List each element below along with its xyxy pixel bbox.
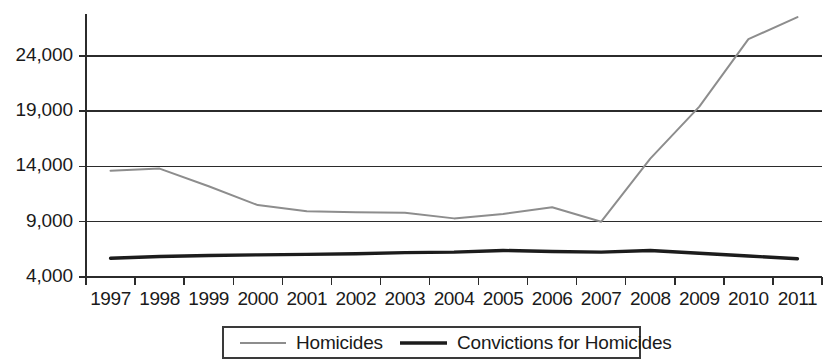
x-axis-tick-label: 1997 [90,288,131,309]
x-axis-tick-label: 2010 [728,288,769,309]
line-chart: 4,0009,00014,00019,00024,000 19971998199… [0,0,837,364]
x-axis-tick-label: 2000 [237,288,278,309]
x-axis-tick-label: 2006 [532,288,573,309]
x-axis-tick-label: 1999 [188,288,229,309]
y-axis-tick-marks [79,56,86,277]
x-axis-labels: 1997199819992000200120022003200420052006… [90,288,817,309]
y-axis-labels: 4,0009,00014,00019,00024,000 [15,44,73,286]
chart-container: 4,0009,00014,00019,00024,000 19971998199… [0,0,837,364]
y-axis-tick-label: 9,000 [26,210,73,231]
x-axis-tick-label: 2007 [581,288,622,309]
x-axis-tick-label: 2004 [434,288,476,309]
y-axis-tick-label: 4,000 [26,265,73,286]
x-axis-tick-label: 2009 [679,288,720,309]
x-axis-tick-label: 2011 [778,288,817,309]
series-line-convictions [111,250,798,258]
x-axis-tick-label: 2001 [286,288,327,309]
series-line-homicides [111,17,798,222]
gridlines [86,56,822,222]
legend-label-homicides: Homicides [296,332,383,353]
x-axis-tick-label: 2008 [630,288,671,309]
y-axis-tick-label: 24,000 [15,44,73,65]
y-axis-tick-label: 14,000 [15,154,73,175]
x-axis-tick-label: 2005 [483,288,524,309]
x-axis-tick-label: 2002 [336,288,377,309]
y-axis-tick-label: 19,000 [15,99,73,120]
chart-legend: Homicides Convictions for Homicides [223,327,672,358]
x-axis-tick-label: 2003 [385,288,426,309]
x-axis-tick-label: 1998 [139,288,180,309]
legend-label-convictions: Convictions for Homicides [457,332,672,353]
x-axis-tick-marks [86,277,822,285]
